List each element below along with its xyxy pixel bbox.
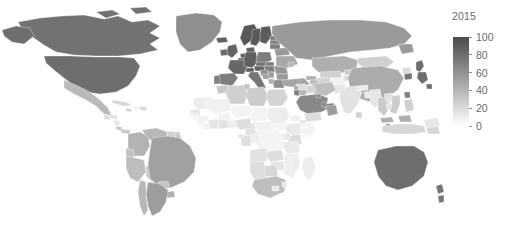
country-region[interactable]: Lebanon: 48 (294, 86, 298, 90)
tick-label: 40 (476, 83, 488, 97)
colorbar-ticks: 100806040200 (469, 37, 517, 126)
country-region[interactable]: Dominican Republic: 20 (140, 106, 147, 111)
country-region[interactable]: Lesotho: 12 (272, 186, 279, 191)
country-region[interactable]: Central African Republic: 8 (254, 121, 274, 131)
tick-mark (469, 72, 472, 73)
tick-mark (469, 90, 472, 91)
tick-label: 80 (476, 48, 488, 62)
country-region[interactable]: Sri Lanka: 24 (356, 112, 362, 118)
country-region[interactable]: Slovakia: 72 (266, 62, 274, 66)
tick-mark (469, 108, 472, 109)
country-region[interactable]: Oman: 54 (326, 105, 338, 116)
tick-mark (469, 37, 472, 38)
legend-panel: 2015 100806040200 (444, 0, 521, 236)
country-region[interactable]: Libya: 28 (246, 87, 268, 106)
country-region[interactable]: Equatorial Guinea: 14 (238, 134, 244, 138)
country-region[interactable]: Qatar: 68 (322, 102, 326, 107)
country-region[interactable]: Czechia: 76 (256, 62, 266, 66)
world-choropleth-figure: Canada: 78United States: 80Greenland: 62… (0, 0, 521, 236)
country-region[interactable]: Portugal: 70 (214, 75, 220, 84)
country-region[interactable]: North Korea: 20 (402, 67, 411, 74)
tick-mark (469, 126, 472, 127)
country-region[interactable]: Yemen: 18 (304, 112, 322, 122)
world-map[interactable]: Canada: 78United States: 80Greenland: 62… (0, 0, 446, 236)
country-region[interactable]: Burkina Faso: 8 (218, 113, 231, 120)
country-region[interactable]: Malawi: 10 (284, 156, 291, 168)
country-region[interactable]: Kuwait: 62 (316, 94, 321, 98)
country-region[interactable]: Georgia: 44 (306, 76, 316, 80)
country-region[interactable]: Ghana: 16 (218, 119, 228, 129)
country-region[interactable]: Jordan: 40 (298, 90, 306, 96)
country-region[interactable]: Moldova: 40 (288, 62, 294, 67)
country-region[interactable]: Gambia: 8 (190, 114, 197, 117)
tick-label: 60 (476, 66, 488, 80)
country-region[interactable]: Eritrea: 8 (290, 115, 300, 122)
country-region[interactable]: Taiwan: 72 (404, 92, 410, 98)
country-region[interactable]: Philippines: 26 (404, 99, 414, 112)
country-region[interactable]: Israel: 72 (294, 90, 299, 96)
country-region[interactable]: Eswatini: 14 (282, 182, 287, 187)
country-region[interactable]: Papua New Guinea: 14 (424, 118, 440, 128)
country-region[interactable]: Ireland: 82 (220, 49, 228, 56)
country-region[interactable]: Nepal: 10 (356, 85, 368, 91)
country-region[interactable]: South Korea: 76 (404, 73, 412, 80)
country-region[interactable]: Switzerland: 88 (246, 68, 254, 72)
tick-label: 0 (476, 119, 482, 133)
country-region[interactable]: Panama: 30 (121, 129, 130, 134)
country-region[interactable]: Bosnia and Herzegovina: 52 (262, 74, 269, 79)
country-region[interactable]: Bulgaria: 56 (276, 74, 288, 80)
tick-label: 20 (476, 101, 488, 115)
tick-mark (469, 54, 472, 55)
map-panel: Canada: 78United States: 80Greenland: 62… (0, 0, 446, 236)
tick-label: 100 (476, 30, 494, 44)
colorbar-gradient (453, 37, 469, 126)
country-region[interactable]: Albania: 44 (268, 79, 274, 84)
country-region[interactable]: Iceland: 88 (216, 37, 228, 43)
country-region[interactable]: Lithuania: 72 (270, 44, 280, 49)
colorbar (453, 37, 469, 126)
legend-title: 2015 (452, 10, 476, 22)
